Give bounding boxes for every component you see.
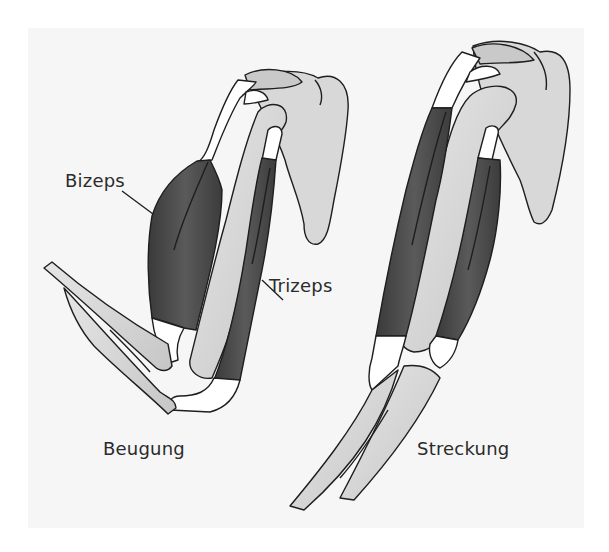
biceps-leader-line bbox=[122, 191, 153, 214]
triceps-label: Trizeps bbox=[269, 275, 332, 296]
extension-caption: Streckung bbox=[417, 438, 509, 459]
flexion-arm bbox=[44, 70, 348, 414]
flexion-caption: Beugung bbox=[103, 438, 185, 459]
biceps-label: Bizeps bbox=[65, 170, 125, 191]
elbow-joint bbox=[169, 378, 240, 412]
